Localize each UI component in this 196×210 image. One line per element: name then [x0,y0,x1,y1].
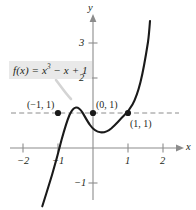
y-tick-label-3: 3 [79,38,84,49]
y-tick-label-2: 2 [79,73,84,84]
function-expression-prefix: f(x) = x [13,64,47,76]
point-label-1-1: (1, 1) [130,119,152,129]
label-leader-line [56,80,71,99]
point-marker-minus1-1 [55,110,61,116]
point-marker-0-1 [90,110,96,116]
point-marker-1-1 [125,110,131,116]
point-label-minus1-1: (−1, 1) [27,100,54,110]
function-graph-figure: f(x) = x3 − x + 1 x y −2 −1 1 2 3 2 −1 (… [0,0,196,210]
x-axis-label: x [186,142,191,153]
x-tick-label--2: −2 [17,156,29,167]
x-tick-label--1: −1 [52,156,64,167]
y-axis-label: y [88,3,93,14]
point-label-0-1: (0, 1) [96,100,118,110]
y-tick-label--1: −1 [74,178,86,189]
x-tick-label-2: 2 [160,156,165,167]
x-tick-label-1: 1 [125,156,130,167]
x-axis [10,144,184,153]
